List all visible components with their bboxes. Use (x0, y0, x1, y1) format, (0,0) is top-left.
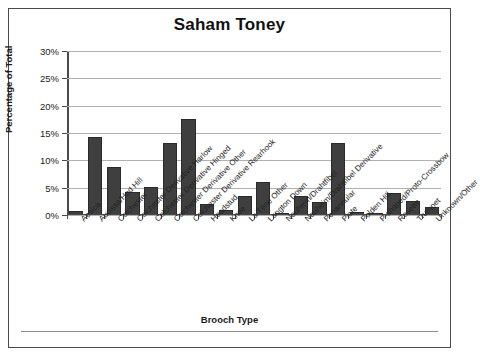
bar-slot (86, 51, 105, 215)
chart-frame: Saham Toney Percentage of Total 0%5%10%1… (8, 8, 451, 348)
bar-slot (142, 51, 161, 215)
bar-slot (104, 51, 123, 215)
y-axis-tick-label: 25% (40, 73, 59, 84)
x-axis-tick-mark (67, 215, 68, 219)
y-axis-title: Percentage of Total (3, 46, 14, 133)
bar-slot (366, 51, 385, 215)
bar-slot (385, 51, 404, 215)
chart-title: Saham Toney (9, 15, 450, 35)
y-axis-tick-label: 5% (45, 182, 59, 193)
bar-slot (422, 51, 441, 215)
bar-slot (235, 51, 254, 215)
bottom-divider (21, 331, 438, 332)
bar-slot (254, 51, 273, 215)
y-axis-tick-label: 30% (40, 46, 59, 57)
y-axis-tick-label: 20% (40, 100, 59, 111)
x-axis-title: Brooch Type (9, 314, 450, 325)
bar-slot (67, 51, 86, 215)
y-axis-tick-label: 10% (40, 155, 59, 166)
y-axis-tick-label: 15% (40, 128, 59, 139)
y-axis-tick-label: 0% (45, 210, 59, 221)
